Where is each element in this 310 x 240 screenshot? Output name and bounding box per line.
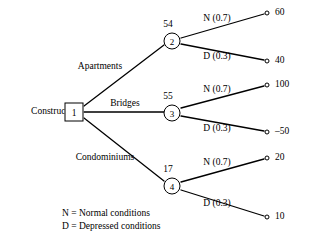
terminal-node-node2-depressed [265, 59, 270, 64]
legend-item-normal: N = Normal conditions [62, 207, 161, 220]
outcome-label-node3-depressed: D (0.3) [203, 124, 230, 134]
payoff-node3-normal: 100 [275, 80, 289, 90]
chance-node-4[interactable]: 4 [164, 178, 181, 195]
root-label: Construct [31, 107, 68, 117]
edge-condominiums [84, 118, 164, 181]
decision-tree-diagram: Construct 1 Apartments Bridges Condomini… [0, 0, 310, 240]
terminal-node-node3-depressed [265, 130, 270, 135]
payoff-node4-normal: 20 [275, 153, 285, 163]
branch-label-condominiums: Condominiums [76, 153, 135, 163]
tree-edges [0, 0, 310, 240]
chance-node-2[interactable]: 2 [164, 33, 181, 50]
legend: N = Normal conditions D = Depressed cond… [62, 207, 161, 233]
payoff-node4-depressed: 10 [275, 212, 285, 222]
branch-label-bridges: Bridges [110, 99, 140, 109]
chance-node-4-id: 4 [170, 181, 175, 191]
payoff-node3-depressed: –50 [275, 127, 289, 137]
chance-node-3-id: 3 [170, 108, 175, 118]
payoff-node2-depressed: 40 [275, 56, 285, 66]
outcome-label-node2-normal: N (0.7) [203, 14, 230, 24]
outcome-label-node3-normal: N (0.7) [203, 85, 230, 95]
legend-item-depressed: D = Depressed conditions [62, 220, 161, 233]
terminal-node-node2-normal [265, 11, 270, 16]
terminal-node-node3-normal [265, 83, 270, 88]
outcome-label-node4-normal: N (0.7) [203, 158, 230, 168]
expected-value-node-3: 55 [163, 92, 173, 102]
expected-value-node-4: 17 [163, 165, 173, 175]
decision-node-1-id: 1 [72, 107, 77, 117]
decision-node-1[interactable]: 1 [65, 103, 84, 122]
payoff-node2-normal: 60 [275, 8, 285, 18]
terminal-node-node4-depressed [265, 215, 270, 220]
outcome-label-node2-depressed: D (0.3) [203, 52, 230, 62]
outcome-label-node4-depressed: D (0.3) [203, 199, 230, 209]
edge-apartments [84, 45, 164, 106]
branch-label-apartments: Apartments [78, 62, 122, 72]
terminal-node-node4-normal [265, 156, 270, 161]
chance-node-2-id: 2 [170, 36, 175, 46]
expected-value-node-2: 54 [163, 20, 173, 30]
chance-node-3[interactable]: 3 [164, 105, 181, 122]
